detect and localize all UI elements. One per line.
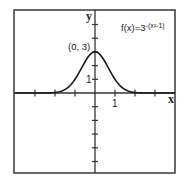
y-tick-label-1: 1: [86, 74, 92, 85]
function-label-base: f(x)=3: [121, 22, 146, 33]
x-axis-label: x: [168, 92, 174, 106]
peak-annotation: (0, 3): [68, 41, 90, 52]
y-axis-label: y: [86, 9, 92, 23]
function-label-exponent: -(x²-1): [146, 22, 165, 30]
x-tick-label-1: 1: [112, 98, 118, 109]
function-graph: y x 1 1 (0, 3) f(x)=3-(x²-1): [0, 0, 184, 181]
